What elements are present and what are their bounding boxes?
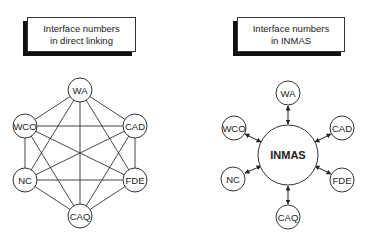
left-node-wa: WA — [68, 78, 92, 102]
svg-text:FDE: FDE — [126, 175, 145, 186]
svg-text:WCO: WCO — [13, 121, 36, 132]
svg-text:CAQ: CAQ — [278, 212, 299, 223]
svg-text:CAD: CAD — [125, 121, 145, 132]
svg-text:NC: NC — [18, 175, 32, 186]
left-node-nc: NC — [13, 168, 37, 192]
svg-text:CAD: CAD — [332, 123, 352, 134]
left-node-caq: CAQ — [68, 204, 92, 228]
right-node-wco: WCO — [222, 116, 246, 140]
svg-text:INMAS: INMAS — [270, 149, 305, 161]
svg-text:FDE: FDE — [333, 175, 352, 186]
direct-link-edges — [25, 90, 135, 216]
svg-text:NC: NC — [226, 174, 240, 185]
right-node-caq: CAQ — [276, 205, 300, 229]
svg-text:WA: WA — [281, 88, 297, 99]
right-node-wa: WA — [276, 81, 300, 105]
right-node-fde: FDE — [330, 168, 354, 192]
svg-text:CAQ: CAQ — [70, 211, 91, 222]
right-node-nc: NC — [221, 167, 245, 191]
right-node-cad: CAD — [330, 116, 354, 140]
left-node-fde: FDE — [123, 168, 147, 192]
svg-text:WCO: WCO — [222, 123, 245, 134]
svg-text:WA: WA — [73, 85, 89, 96]
left-node-cad: CAD — [123, 114, 147, 138]
diagram-canvas: WA CAD FDE CAQ NC WCO INMAS WA CAD — [0, 0, 371, 242]
left-node-wco: WCO — [13, 114, 37, 138]
hub-inmas: INMAS — [258, 125, 318, 185]
